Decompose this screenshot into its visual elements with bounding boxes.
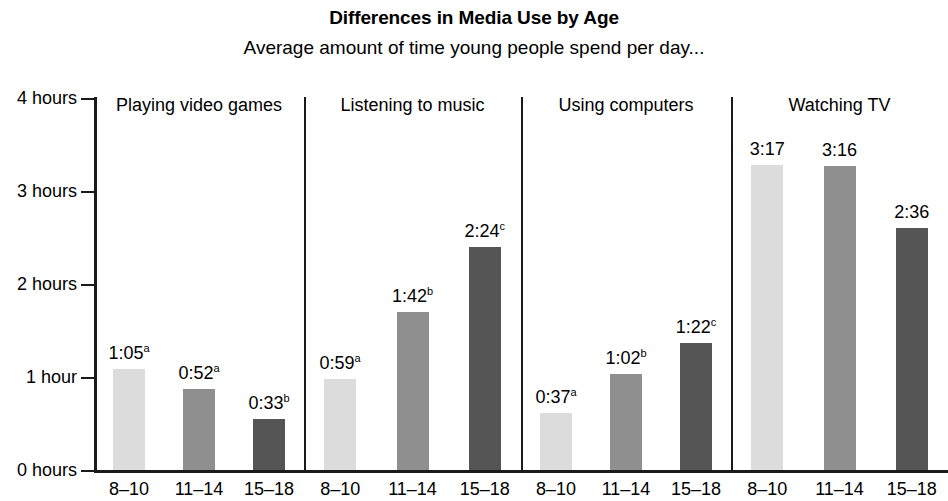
bar bbox=[610, 374, 642, 470]
bar-value-text: 0:59 bbox=[320, 353, 355, 373]
chart-page: Differences in Media Use by Age Average … bbox=[0, 0, 948, 501]
bar-value-text: 1:05 bbox=[108, 343, 143, 363]
bar bbox=[253, 419, 285, 470]
plot-area: 0 hours1 hour2 hours3 hours4 hours Playi… bbox=[94, 97, 948, 473]
y-axis-tick-label: 2 hours bbox=[17, 274, 77, 295]
bar-value-text: 2:24 bbox=[465, 221, 500, 241]
bar-value-text: 1:22 bbox=[676, 317, 711, 337]
bar bbox=[324, 379, 356, 470]
bar-value-text: 3:16 bbox=[822, 140, 857, 160]
bar-value-label: 0:37a bbox=[535, 388, 576, 406]
chart-subtitle: Average amount of time young people spen… bbox=[0, 37, 948, 59]
bar-value-label: 2:24c bbox=[465, 222, 506, 240]
panel-title-4: Watching TV bbox=[788, 95, 890, 116]
panel-title-2: Listening to music bbox=[340, 95, 484, 116]
bar bbox=[469, 247, 501, 470]
panel-divider bbox=[304, 97, 306, 470]
x-axis-tick-label: 11–14 bbox=[388, 479, 437, 500]
bar-value-label: 3:17 bbox=[750, 140, 785, 158]
x-axis-line bbox=[94, 470, 948, 473]
bar-value-label: 1:05a bbox=[108, 344, 149, 362]
bar-value-label: 1:42b bbox=[392, 287, 433, 305]
bar-value-label: 0:52a bbox=[178, 364, 219, 382]
bar-value-text: 1:42 bbox=[392, 286, 427, 306]
y-axis-tick-label: 1 hour bbox=[26, 367, 77, 388]
bar-value-superscript: a bbox=[570, 386, 576, 398]
bar bbox=[824, 166, 856, 470]
x-axis-tick-label: 8–10 bbox=[320, 479, 360, 500]
y-axis-tick-mark bbox=[81, 377, 94, 379]
x-axis-tick-label: 15–18 bbox=[671, 479, 721, 500]
bar bbox=[540, 413, 572, 470]
bar-value-superscript: a bbox=[213, 362, 219, 374]
panel-divider bbox=[731, 97, 733, 470]
y-axis-tick-label: 0 hours bbox=[17, 460, 77, 481]
x-axis-tick-label: 11–14 bbox=[602, 479, 651, 500]
x-axis-tick-label: 8–10 bbox=[747, 479, 787, 500]
panel-title-1: Playing video games bbox=[116, 95, 282, 116]
bar bbox=[113, 369, 145, 470]
y-axis-tick-mark bbox=[81, 191, 94, 193]
bar bbox=[183, 389, 215, 470]
bar-value-superscript: a bbox=[143, 342, 149, 354]
bar-value-superscript: b bbox=[283, 392, 289, 404]
y-axis-tick-mark bbox=[81, 470, 94, 472]
y-axis-tick-mark bbox=[81, 284, 94, 286]
bar bbox=[680, 343, 712, 470]
bar-value-label: 1:02b bbox=[605, 349, 646, 367]
bar bbox=[751, 165, 783, 470]
bar-value-text: 2:36 bbox=[894, 202, 929, 222]
bar-value-text: 3:17 bbox=[750, 139, 785, 159]
bar-value-label: 3:16 bbox=[822, 141, 857, 159]
y-axis-tick-label: 3 hours bbox=[17, 181, 77, 202]
bar-value-text: 0:37 bbox=[535, 387, 570, 407]
bar-value-text: 0:33 bbox=[248, 393, 283, 413]
x-axis-tick-label: 15–18 bbox=[460, 479, 510, 500]
bar bbox=[397, 312, 429, 470]
y-axis-line bbox=[94, 97, 97, 473]
bar bbox=[896, 228, 928, 470]
bar-value-label: 1:22c bbox=[676, 318, 717, 336]
y-axis-tick-mark bbox=[81, 98, 94, 100]
bar-value-label: 0:33b bbox=[248, 394, 289, 412]
bar-value-text: 0:52 bbox=[178, 363, 213, 383]
x-axis-tick-label: 15–18 bbox=[887, 479, 937, 500]
y-axis-tick-label: 4 hours bbox=[17, 88, 77, 109]
bar-value-label: 0:59a bbox=[320, 354, 361, 372]
panel-divider bbox=[521, 97, 523, 470]
bar-value-superscript: b bbox=[427, 285, 433, 297]
page-title: Differences in Media Use by Age bbox=[0, 7, 948, 29]
bar-value-label: 2:36 bbox=[894, 203, 929, 221]
bar-value-superscript: a bbox=[355, 352, 361, 364]
bar-value-superscript: c bbox=[711, 316, 717, 328]
x-axis-tick-label: 8–10 bbox=[109, 479, 149, 500]
x-axis-tick-label: 8–10 bbox=[536, 479, 576, 500]
panel-title-3: Using computers bbox=[558, 95, 693, 116]
bar-value-superscript: b bbox=[640, 347, 646, 359]
x-axis-tick-label: 11–14 bbox=[175, 479, 224, 500]
x-axis-tick-label: 15–18 bbox=[244, 479, 294, 500]
bar-value-text: 1:02 bbox=[605, 348, 640, 368]
x-axis-tick-label: 11–14 bbox=[815, 479, 864, 500]
bar-value-superscript: c bbox=[500, 220, 506, 232]
